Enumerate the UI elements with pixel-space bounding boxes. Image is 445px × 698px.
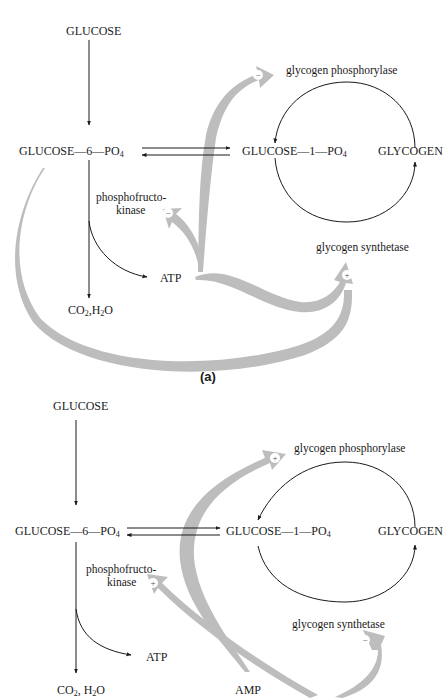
synthetase-activate-mark: +: [344, 270, 349, 280]
atp-label-a: ATP: [160, 271, 181, 285]
amp-to-phosphorylase-arrow: [180, 450, 286, 672]
amp-label-b: AMP: [235, 683, 261, 697]
panel-b: + + −: [76, 420, 415, 698]
atp-label-b: ATP: [146, 650, 167, 664]
g6p-label-a: GLUCOSE—6—PO4: [19, 144, 124, 162]
g1p-label-b: GLUCOSE—1—PO4: [226, 524, 331, 542]
co2-h2o-label-a: CO2,H2O: [68, 303, 113, 321]
atp-to-synthetase-arrow: [195, 262, 353, 312]
amp-to-pfk-arrow: [147, 574, 318, 698]
glycogen-to-g1p-arrow-b: [258, 462, 415, 527]
g1p-to-glycogen-arrow-b: [258, 545, 415, 602]
phosphofructokinase-label-a-line1: phosphofructo-: [96, 190, 166, 204]
phosphofructokinase-label-a-line2: kinase: [116, 203, 145, 217]
glycogen-phosphorylase-label-a: glycogen phosphorylase: [286, 63, 397, 77]
synthetase-inhibit-mark: −: [362, 635, 367, 645]
phosphofructokinase-label-b-line1: phosphofructo-: [86, 562, 156, 576]
phosphofructokinase-label-b-line2: kinase: [107, 575, 136, 589]
g1p-to-glycogen-arrow: [275, 158, 415, 222]
g6p-label-b: GLUCOSE—6—PO4: [15, 524, 120, 542]
glucose-label-b: GLUCOSE: [53, 399, 108, 413]
phosphorylase-inhibit-mark: −: [255, 70, 260, 80]
glycolysis-to-atp-arrow: [89, 221, 147, 277]
glycogen-synthetase-label-a: glycogen synthetase: [316, 240, 409, 254]
g6p-to-synthetase-arrow: [15, 168, 352, 372]
glycogen-label-b: GLYCOGEN: [378, 524, 443, 538]
co2-h2o-label-b: CO2, H2O: [57, 683, 105, 698]
g1p-label-a: GLUCOSE—1—PO4: [242, 144, 347, 162]
glycolysis-to-atp-arrow-b: [76, 609, 131, 655]
panel-a-regulatory-arrows: [15, 66, 353, 372]
pfk-activate-mark: +: [150, 578, 155, 588]
atp-to-phosphorylase-arrow: [198, 66, 274, 272]
glycogen-synthetase-label-b: glycogen synthetase: [292, 617, 385, 631]
panel-a-caption: (a): [200, 369, 216, 384]
panel-b-regulatory-arrows: [147, 450, 385, 698]
panel-a: − − +: [15, 40, 415, 372]
amp-to-synthetase-arrow: [335, 630, 385, 698]
glycogen-phosphorylase-label-b: glycogen phosphorylase: [294, 441, 405, 455]
pfk-inhibit-mark: −: [165, 208, 170, 218]
glycogen-label-a: GLYCOGEN: [378, 144, 443, 158]
glucose-label-a: GLUCOSE: [66, 24, 121, 38]
glycogen-to-g1p-arrow: [275, 82, 415, 148]
metabolic-regulation-diagram: − − + + + −: [0, 0, 445, 698]
phosphorylase-activate-mark: +: [272, 453, 277, 463]
